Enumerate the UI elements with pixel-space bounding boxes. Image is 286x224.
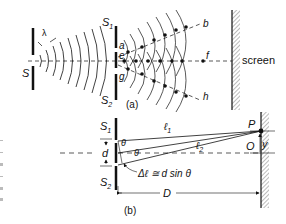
screen-b (261, 112, 269, 208)
point-g-label: g (119, 71, 125, 82)
theta-label-1: θ (121, 138, 126, 148)
wavelength-label: λ (42, 28, 47, 38)
slit1-label: S1 (102, 16, 113, 30)
point-h-label: h (203, 91, 209, 102)
screen-label: screen (242, 54, 275, 66)
panel-b: S1 S2 d θ θ ℓ1 ℓ2 Δℓ ≅ d sin θ P O (60, 112, 275, 216)
ray-h (118, 65, 200, 100)
ray-center (118, 131, 261, 153)
l2-label: ℓ2 (195, 140, 203, 153)
d-label: d (102, 147, 109, 159)
theta-label-2: θ (134, 148, 139, 158)
O-label: O (246, 140, 255, 152)
P-label: P (248, 118, 256, 130)
slit2-label-b: S2 (100, 176, 111, 190)
point-f-label: f (206, 50, 210, 61)
panel-a-caption: (a) (126, 99, 138, 110)
intersection-dots (122, 25, 205, 98)
screen-a (232, 10, 240, 110)
l1-label: ℓ1 (163, 121, 171, 134)
path-diff-label: Δℓ ≅ d sin θ (137, 168, 191, 179)
cropped-margin-marks (0, 140, 3, 201)
double-slit-diagram: S λ S1 S2 a e g (0, 0, 286, 224)
ray-b (118, 24, 200, 57)
point-b-label: b (203, 18, 209, 29)
panel-b-caption: (b) (124, 205, 136, 216)
wavelength-arrow-right (50, 38, 56, 42)
path-diff-arrow (124, 164, 137, 172)
source-label: S (22, 67, 30, 79)
slit2-label: S2 (101, 94, 112, 108)
panel-a: S λ S1 S2 a e g (22, 10, 275, 112)
wavelength-arrow-left (38, 42, 42, 46)
D-label: D (163, 187, 171, 199)
slit1-label-b: S1 (100, 120, 111, 134)
